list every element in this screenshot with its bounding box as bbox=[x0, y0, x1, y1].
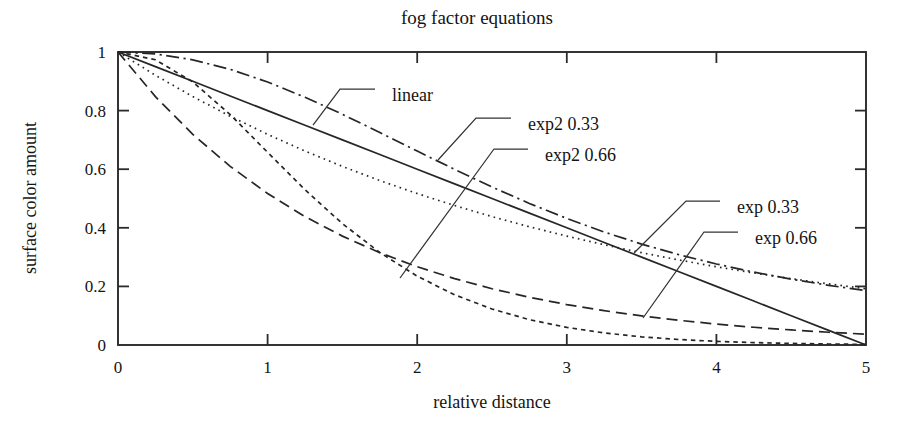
curve-exp-0-66 bbox=[118, 52, 866, 334]
curve-exp2-0-33 bbox=[118, 52, 866, 291]
annotation-labels: linearexp2 0.33exp2 0.66exp 0.33exp 0.66 bbox=[392, 85, 817, 248]
series-label-exp-0-66: exp 0.66 bbox=[755, 228, 817, 248]
chart-title: fog factor equations bbox=[401, 7, 553, 28]
annotation-leaders bbox=[313, 89, 738, 318]
curve-exp-0-33 bbox=[118, 52, 866, 289]
leader-linear bbox=[313, 89, 375, 125]
series-label-exp-0-33: exp 0.33 bbox=[737, 197, 799, 217]
chart-canvas: fog factor equations surface color amoun… bbox=[0, 0, 901, 422]
y-tick-label: 0.2 bbox=[85, 277, 106, 296]
y-tick-label: 0.8 bbox=[85, 102, 106, 121]
y-tick-label: 0 bbox=[98, 336, 107, 355]
x-tick-label: 4 bbox=[712, 358, 721, 377]
y-axis-label: surface color amount bbox=[20, 122, 40, 274]
x-tick-label: 3 bbox=[563, 358, 572, 377]
leader-exp2-0-66 bbox=[400, 149, 528, 278]
leader-exp-0-66 bbox=[643, 232, 738, 318]
series-label-exp2-0-66: exp2 0.66 bbox=[545, 145, 616, 165]
x-tick-label: 5 bbox=[862, 358, 871, 377]
x-tick-label: 1 bbox=[263, 358, 272, 377]
x-tick-label: 0 bbox=[114, 358, 123, 377]
y-tick-label: 0.4 bbox=[85, 219, 107, 238]
x-axis-label: relative distance bbox=[433, 392, 550, 412]
series-label-linear: linear bbox=[392, 85, 433, 105]
series-label-exp2-0-33: exp2 0.33 bbox=[528, 114, 599, 134]
y-tick-label: 0.6 bbox=[85, 160, 106, 179]
y-tick-label: 1 bbox=[98, 43, 107, 62]
leader-exp2-0-33 bbox=[438, 118, 511, 160]
x-tick-label: 2 bbox=[413, 358, 422, 377]
fog-factor-chart: fog factor equations surface color amoun… bbox=[0, 0, 901, 422]
